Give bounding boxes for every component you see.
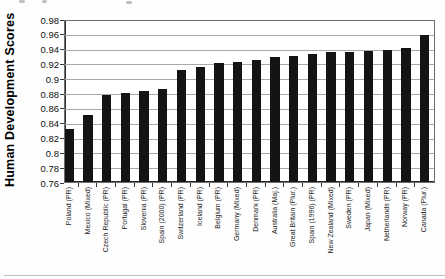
y-tick-mark xyxy=(60,153,64,154)
gridline xyxy=(65,50,434,51)
x-tick-mark xyxy=(134,183,135,187)
y-tick-mark xyxy=(60,138,64,139)
x-tick-mark xyxy=(302,183,303,187)
x-tick-mark xyxy=(246,183,247,187)
bar xyxy=(383,50,392,182)
x-tick-mark xyxy=(396,183,397,187)
y-tick-label: 0.84 xyxy=(28,118,59,129)
x-tick-label: Netherlands (PR) xyxy=(381,187,392,271)
bar xyxy=(121,93,130,182)
bar xyxy=(326,52,335,182)
y-tick-label: 0.88 xyxy=(28,89,59,100)
y-tick-mark xyxy=(60,108,64,109)
bar xyxy=(196,67,205,182)
x-tick-label: Australia (Maj.) xyxy=(269,187,280,271)
y-axis-title: Human Development Scores xyxy=(1,20,19,187)
bar xyxy=(289,56,298,182)
x-tick-label: Mexico (Mixed) xyxy=(82,187,93,271)
x-tick-label: Poland (PR) xyxy=(63,187,74,271)
x-tick-label: Norway (PR) xyxy=(399,187,410,271)
gridline xyxy=(65,79,434,80)
plot-area xyxy=(64,20,435,183)
y-tick-label: 0.8 xyxy=(28,148,59,159)
bar xyxy=(139,91,148,182)
x-tick-mark xyxy=(265,183,266,187)
bar xyxy=(420,35,429,182)
x-tick-mark xyxy=(78,183,79,187)
bar xyxy=(65,129,74,182)
bar xyxy=(83,115,92,182)
bar xyxy=(158,89,167,182)
y-tick-mark xyxy=(60,34,64,35)
gridline xyxy=(65,35,434,36)
y-tick-label: 0.92 xyxy=(28,59,59,70)
cropped-text-artifact xyxy=(19,0,25,3)
bar xyxy=(233,62,242,182)
y-tick-mark xyxy=(60,20,64,21)
x-tick-mark xyxy=(171,183,172,187)
x-tick-mark xyxy=(209,183,210,187)
x-tick-mark xyxy=(377,183,378,187)
x-tick-label: Great Britain (Plur.) xyxy=(287,187,298,271)
bar xyxy=(364,51,373,182)
y-tick-mark xyxy=(60,183,64,184)
x-tick-mark xyxy=(152,183,153,187)
y-tick-label: 0.76 xyxy=(28,178,59,189)
gridline xyxy=(65,64,434,65)
bottom-rule xyxy=(4,275,445,276)
x-tick-label: Germany (Mixed) xyxy=(231,187,242,271)
bar xyxy=(308,54,317,182)
y-tick-mark xyxy=(60,94,64,95)
y-tick-mark xyxy=(60,123,64,124)
x-tick-label: Japan (Mixed) xyxy=(362,187,373,271)
y-tick-label: 0.86 xyxy=(28,103,59,114)
x-tick-label: Spain (1996) (PR) xyxy=(306,187,317,271)
x-tick-label: Sweden (PR) xyxy=(343,187,354,271)
x-tick-mark xyxy=(283,183,284,187)
cropped-text-artifact xyxy=(126,1,132,4)
bar xyxy=(177,70,186,182)
bar xyxy=(401,48,410,182)
bar xyxy=(252,60,261,182)
x-tick-label: Iceland (PR) xyxy=(194,187,205,271)
x-tick-label: Belgium (PR) xyxy=(212,187,223,271)
figure: Human Development Scores 0.980.960.940.9… xyxy=(0,0,445,279)
y-tick-label: 0.82 xyxy=(28,133,59,144)
x-tick-mark xyxy=(321,183,322,187)
bar xyxy=(345,52,354,182)
x-tick-label: Spain (2000) (PR) xyxy=(156,187,167,271)
x-tick-mark xyxy=(96,183,97,187)
y-tick-label: 0.98 xyxy=(28,15,59,26)
y-tick-mark xyxy=(60,168,64,169)
y-tick-label: 0.78 xyxy=(28,163,59,174)
x-tick-label: Denmark (PR) xyxy=(250,187,261,271)
bar xyxy=(102,95,111,182)
cropped-text-artifact xyxy=(42,0,47,3)
y-tick-mark xyxy=(60,79,64,80)
x-tick-label: Slovenia (PR) xyxy=(138,187,149,271)
x-tick-mark xyxy=(414,183,415,187)
y-tick-mark xyxy=(60,64,64,65)
y-tick-label: 0.94 xyxy=(28,44,59,55)
x-tick-label: New Zealand (Mixed) xyxy=(325,187,336,271)
bar xyxy=(270,57,279,182)
x-tick-mark xyxy=(190,183,191,187)
x-tick-label: Portugal (PR) xyxy=(119,187,130,271)
y-tick-label: 0.9 xyxy=(28,74,59,85)
x-tick-label: Czech Republic (PR) xyxy=(100,187,111,271)
y-tick-mark xyxy=(60,49,64,50)
y-tick-label: 0.96 xyxy=(28,29,59,40)
x-tick-mark xyxy=(227,183,228,187)
x-tick-mark xyxy=(115,183,116,187)
x-tick-label: Switzerland (PR) xyxy=(175,187,186,271)
x-tick-mark xyxy=(358,183,359,187)
bar xyxy=(214,63,223,182)
x-tick-mark xyxy=(339,183,340,187)
x-tick-label: Canada (Plur.) xyxy=(418,187,429,271)
